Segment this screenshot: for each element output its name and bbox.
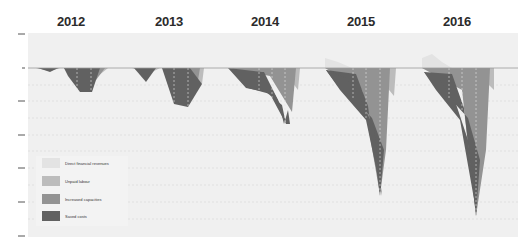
- y-axis-ticks: [18, 34, 25, 236]
- year-label-2016: 2016: [443, 14, 471, 29]
- legend-label: Unpaid labour: [65, 179, 90, 184]
- legend-item-saved-costs: Saved costs: [42, 211, 87, 221]
- legend-item-increased-capacities: Increased capacities: [42, 194, 101, 204]
- legend-swatch: [42, 194, 60, 204]
- legend-label: Saved costs: [65, 214, 87, 219]
- legend-swatch: [42, 176, 60, 186]
- year-label-2013: 2013: [155, 14, 183, 29]
- legend-swatch: [42, 158, 60, 168]
- legend-item-direct-financial-revenues: Direct financial revenues: [42, 158, 109, 168]
- year-label-2015: 2015: [347, 14, 375, 29]
- legend-label: Increased capacities: [65, 197, 101, 202]
- legend: Direct financial revenues Unpaid labour …: [36, 156, 128, 226]
- year-label-2012: 2012: [57, 14, 85, 29]
- year-label-2014: 2014: [251, 14, 279, 29]
- legend-swatch: [42, 211, 60, 221]
- legend-item-unpaid-labour: Unpaid labour: [42, 176, 90, 186]
- legend-label: Direct financial revenues: [65, 161, 109, 166]
